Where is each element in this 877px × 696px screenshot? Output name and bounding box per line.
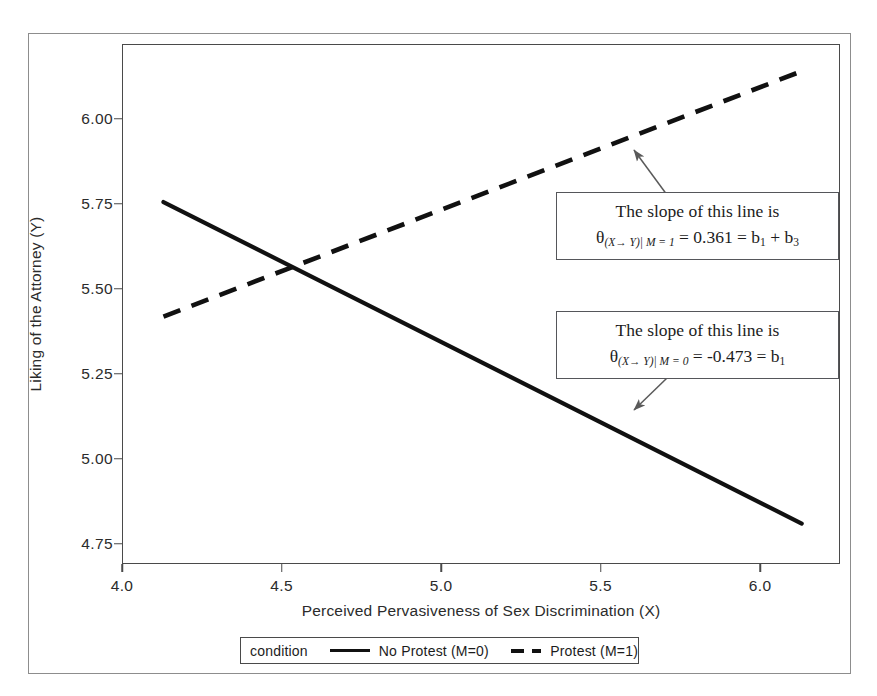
- x-tick-mark: [600, 564, 602, 572]
- annotation-text-line2: θ(X→ Y)| M = 1 = 0.361 = b1 + b3: [569, 225, 826, 250]
- x-tick-mark: [440, 564, 442, 572]
- plot-frame: [122, 44, 840, 564]
- legend-title: condition: [250, 643, 308, 659]
- x-axis-title: Perceived Pervasiveness of Sex Discrimin…: [302, 602, 661, 620]
- x-tick-label: 4.5: [270, 577, 293, 595]
- y-tick-mark: [114, 118, 122, 120]
- b-subscript-1: 1: [780, 355, 786, 367]
- legend-key-no-protest: [330, 649, 370, 653]
- annotation-equation: = -0.473 = b: [688, 346, 779, 366]
- y-tick-mark: [114, 203, 122, 205]
- x-tick-mark: [121, 564, 123, 572]
- y-tick-label: 4.75: [55, 535, 113, 553]
- chart-legend: condition No Protest (M=0) Protest (M=1): [240, 637, 639, 664]
- annotation-protest-slope: The slope of this line is θ(X→ Y)| M = 1…: [556, 192, 839, 260]
- y-tick-mark: [114, 543, 122, 545]
- legend-label-protest: Protest (M=1): [550, 643, 638, 659]
- annotation-text-line1: The slope of this line is: [569, 200, 826, 223]
- y-tick-mark: [114, 373, 122, 375]
- legend-key-protest: [511, 649, 541, 653]
- x-tick-label: 4.0: [111, 577, 134, 595]
- annotation-text-line2: θ(X→ Y)| M = 0 = -0.473 = b1: [569, 344, 826, 369]
- annotation-equation: = 0.361 = b: [675, 227, 760, 247]
- y-tick-label: 5.50: [55, 280, 113, 298]
- theta-symbol: θ: [610, 346, 618, 366]
- x-tick-mark: [759, 564, 761, 572]
- annotation-text-line1: The slope of this line is: [569, 319, 826, 342]
- annotation-no-protest-slope: The slope of this line is θ(X→ Y)| M = 0…: [556, 311, 839, 379]
- y-tick-mark: [114, 288, 122, 290]
- y-tick-label: 5.75: [55, 195, 113, 213]
- y-axis-title: Liking of the Attorney (Y): [27, 217, 45, 392]
- annotation-plus: + b: [766, 227, 793, 247]
- x-tick-label: 6.0: [749, 577, 772, 595]
- b-subscript-3: 3: [793, 236, 799, 248]
- y-tick-label: 5.00: [55, 450, 113, 468]
- y-tick-label: 6.00: [55, 110, 113, 128]
- legend-label-no-protest: No Protest (M=0): [379, 643, 489, 659]
- theta-subscript: (X→ Y)| M = 0: [618, 355, 688, 367]
- theta-subscript: (X→ Y)| M = 1: [604, 236, 674, 248]
- y-tick-mark: [114, 458, 122, 460]
- x-tick-label: 5.0: [430, 577, 453, 595]
- y-tick-label: 5.25: [55, 365, 113, 383]
- x-tick-label: 5.5: [589, 577, 612, 595]
- plot-area: [122, 44, 840, 564]
- x-tick-mark: [281, 564, 283, 572]
